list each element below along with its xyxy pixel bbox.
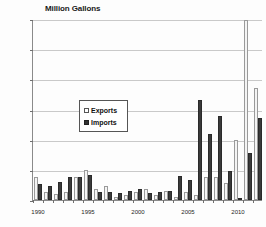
x-tick-mark [213, 200, 214, 203]
x-tick-mark [73, 200, 74, 203]
x-tick-label: 2010 [231, 209, 244, 215]
bar-imports-2000 [138, 189, 142, 200]
bar-imports-1994 [78, 177, 82, 200]
x-tick-label: 2000 [131, 209, 144, 215]
bar-chart: Million Gallons 02004006008001,0001,200 … [0, 0, 266, 227]
bar-imports-1999 [128, 191, 132, 200]
bar-group [154, 20, 162, 200]
bar-imports-1996 [98, 192, 102, 200]
bar-imports-1991 [48, 186, 52, 200]
legend-swatch-exports [84, 108, 89, 113]
x-tick-mark [233, 200, 234, 203]
bar-imports-2012 [258, 118, 262, 200]
x-tick-mark [193, 200, 194, 203]
x-tick-mark [43, 200, 44, 203]
bar-group [144, 20, 152, 200]
y-tick-mark [30, 111, 33, 112]
x-tick-mark [183, 200, 184, 203]
y-tick-mark [30, 171, 33, 172]
bar-imports-1993 [68, 177, 72, 200]
bar-imports-2008 [218, 116, 222, 200]
bar-imports-1992 [58, 182, 62, 200]
bar-imports-2010 [238, 198, 242, 200]
bar-imports-2005 [188, 180, 192, 200]
legend-item-imports: Imports [84, 116, 124, 128]
bar-group [244, 20, 252, 200]
x-tick-mark [253, 200, 254, 203]
x-tick-mark [53, 200, 54, 203]
chart-title: Million Gallons [45, 4, 100, 13]
y-tick-mark [30, 80, 33, 81]
bar-imports-2002 [158, 192, 162, 200]
plot-area: 02004006008001,0001,200 1990199520002005… [32, 20, 262, 201]
x-tick-mark [113, 200, 114, 203]
x-tick-mark [143, 200, 144, 203]
legend-swatch-imports [84, 120, 89, 125]
bar-exports-2010 [234, 140, 238, 200]
bar-group [204, 20, 212, 200]
bar-imports-1995 [88, 175, 92, 200]
bar-group [224, 20, 232, 200]
x-tick-mark [93, 200, 94, 203]
bar-group [184, 20, 192, 200]
bar-group [34, 20, 42, 200]
x-tick-mark [153, 200, 154, 203]
x-tick-label: 1995 [81, 209, 94, 215]
y-tick-mark [30, 20, 33, 21]
bar-imports-2009 [228, 171, 232, 200]
bar-group [44, 20, 52, 200]
chart-legend: Exports Imports [79, 100, 128, 132]
x-tick-mark [173, 200, 174, 203]
bar-group [174, 20, 182, 200]
bar-group [64, 20, 72, 200]
bar-group [54, 20, 62, 200]
bar-group [194, 20, 202, 200]
x-tick-mark [163, 200, 164, 203]
bar-group [234, 20, 242, 200]
bar-imports-2003 [168, 191, 172, 200]
bar-imports-2006 [198, 100, 202, 200]
x-tick-label: 1990 [31, 209, 44, 215]
x-tick-mark [33, 200, 34, 203]
x-tick-mark [63, 200, 64, 203]
bar-imports-1998 [118, 193, 122, 200]
bar-imports-2004 [178, 176, 182, 200]
bar-imports-2007 [208, 134, 212, 200]
x-tick-mark [223, 200, 224, 203]
y-tick-mark [30, 141, 33, 142]
x-tick-mark [103, 200, 104, 203]
x-tick-mark [203, 200, 204, 203]
bar-imports-1997 [108, 192, 112, 200]
bar-group [164, 20, 172, 200]
x-tick-mark [243, 200, 244, 203]
x-tick-mark [83, 200, 84, 203]
legend-item-exports: Exports [84, 104, 124, 116]
x-tick-mark [123, 200, 124, 203]
bar-imports-2011 [248, 153, 252, 201]
legend-label-imports: Imports [91, 119, 117, 126]
bar-group [254, 20, 262, 200]
bar-imports-1990 [38, 184, 42, 200]
bar-group [134, 20, 142, 200]
x-tick-mark [133, 200, 134, 203]
x-tick-label: 2005 [181, 209, 194, 215]
legend-label-exports: Exports [91, 107, 117, 114]
bar-imports-2001 [148, 193, 152, 200]
y-tick-mark [30, 50, 33, 51]
bar-group [214, 20, 222, 200]
